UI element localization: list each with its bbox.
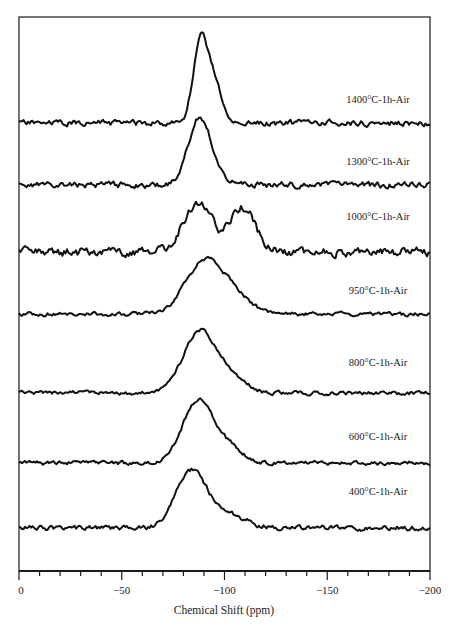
series-label: 800°C-1h-Air [349,357,408,368]
series-label: 1300°C-1h-Air [346,156,410,167]
x-axis-ticks [19,571,430,580]
x-tick-label: 0 [18,584,24,596]
x-axis-label: Chemical Shift (ppm) [174,604,274,617]
spectrum-trace [19,118,430,189]
spectrum-trace [19,32,430,127]
x-tick-label: −100 [213,584,236,596]
x-tick-label: −150 [316,584,339,596]
x-tick-label: −200 [419,584,442,596]
series-label: 400°C-1h-Air [349,486,408,497]
spectrum-trace [19,469,430,531]
series-label: 950°C-1h-Air [349,285,408,296]
spectra-traces [19,32,430,531]
series-labels: 1400°C-1h-Air1300°C-1h-Air1000°C-1h-Air9… [346,94,410,497]
nmr-stacked-spectra-chart: 1400°C-1h-Air1300°C-1h-Air1000°C-1h-Air9… [0,0,451,629]
x-axis-tick-labels: 0−50−100−150−200 [18,584,442,596]
x-tick-label: −50 [113,584,131,596]
series-label: 1400°C-1h-Air [346,94,410,105]
series-label: 600°C-1h-Air [349,431,408,442]
series-label: 1000°C-1h-Air [346,211,410,222]
